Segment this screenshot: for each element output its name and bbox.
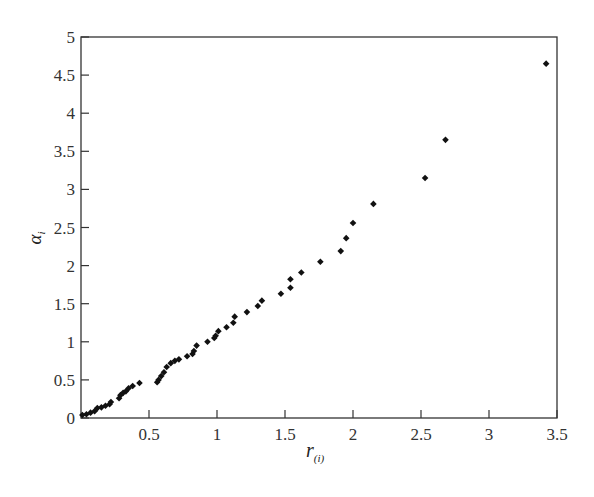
data-point-marker xyxy=(422,175,429,182)
y-tick-label: 2 xyxy=(67,257,76,276)
data-point-marker xyxy=(370,201,377,208)
data-point-marker xyxy=(278,290,285,297)
x-tick-label: 3 xyxy=(485,425,494,444)
data-point-marker xyxy=(244,309,251,316)
data-point-marker xyxy=(193,342,200,349)
data-point-marker xyxy=(350,220,357,227)
data-point-marker xyxy=(231,313,238,320)
x-tick-label: 1.5 xyxy=(274,425,295,444)
x-tick-label: 3.5 xyxy=(546,425,567,444)
x-axis-label: r(i) xyxy=(306,439,325,465)
y-axis-label: αi xyxy=(24,231,47,244)
x-tick-label: 2 xyxy=(349,425,358,444)
y-tick-label: 4 xyxy=(67,104,76,123)
x-axis: 0.511.522.533.5 xyxy=(138,410,567,444)
data-point-marker xyxy=(230,319,237,326)
x-axis-label-main: r xyxy=(306,439,314,461)
data-point-marker xyxy=(543,60,550,67)
y-tick-label: 3.5 xyxy=(54,142,75,161)
data-point-marker xyxy=(287,276,294,283)
x-tick-label: 2.5 xyxy=(410,425,431,444)
data-point-marker xyxy=(204,339,211,346)
data-point-marker xyxy=(442,137,449,144)
y-tick-label: 5 xyxy=(67,28,76,47)
y-tick-label: 4.5 xyxy=(54,66,75,85)
y-tick-label: 2.5 xyxy=(54,219,75,238)
data-point-marker xyxy=(337,248,344,255)
data-point-marker xyxy=(317,258,324,265)
data-point-marker xyxy=(255,303,262,310)
plot-frame xyxy=(81,37,557,418)
x-tick-label: 0.5 xyxy=(138,425,159,444)
data-point-marker xyxy=(298,269,305,276)
data-point-marker xyxy=(287,284,294,291)
data-point-marker xyxy=(223,324,230,331)
x-axis-label-sub: (i) xyxy=(314,452,325,465)
y-tick-label: 0.5 xyxy=(54,371,75,390)
data-point-marker xyxy=(343,235,350,242)
x-tick-label: 1 xyxy=(213,425,222,444)
data-point-marker xyxy=(136,380,143,387)
scatter-chart: 00.511.522.533.544.55 0.511.522.533.5 αi… xyxy=(0,0,594,497)
y-tick-label: 1.5 xyxy=(54,295,75,314)
y-tick-label: 1 xyxy=(67,333,76,352)
data-points xyxy=(79,60,549,418)
y-tick-label: 3 xyxy=(67,180,76,199)
y-axis-label-sub: i xyxy=(35,231,47,234)
data-point-marker xyxy=(259,297,266,304)
y-tick-label: 0 xyxy=(67,409,76,428)
y-axis: 00.511.522.533.544.55 xyxy=(54,28,89,428)
